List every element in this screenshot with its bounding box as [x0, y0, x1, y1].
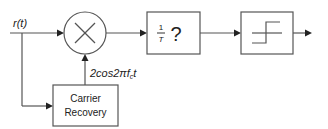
arrowhead-icon [46, 103, 53, 110]
carrier-recovery-label-line2: Recovery [64, 107, 106, 118]
integrator-symbol: ? [170, 23, 181, 45]
arrowhead-icon [305, 30, 312, 37]
carrier-signal-label: 2cos2πfct [89, 67, 137, 80]
input-signal-label: r(t) [13, 17, 27, 29]
arrowhead-icon [82, 54, 89, 61]
arrowhead-icon [234, 30, 241, 37]
receiver-diagram: r(t) 2cos2πfct Carrier Recovery 1 T ? [0, 0, 328, 129]
arrowhead-icon [57, 30, 64, 37]
integrator-numerator: 1 [159, 23, 164, 32]
carrier-recovery-block [53, 85, 118, 126]
arrowhead-icon [140, 30, 147, 37]
carrier-recovery-label-line1: Carrier [70, 93, 101, 104]
